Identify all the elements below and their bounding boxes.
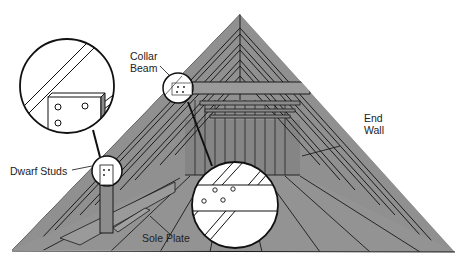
sole-plate-label: Sole Plate [142,232,190,244]
collar-beam-label: Collar Beam [130,50,157,74]
dwarf-stud-magnified-circle [20,30,120,147]
attic-diagram [0,0,465,262]
collar-beam-detail-circle [163,73,193,103]
dwarf-studs-label: Dwarf Studs [10,165,67,177]
end-wall-label: End Wall [364,112,384,136]
dwarf-stud-detail-circle [92,156,122,186]
